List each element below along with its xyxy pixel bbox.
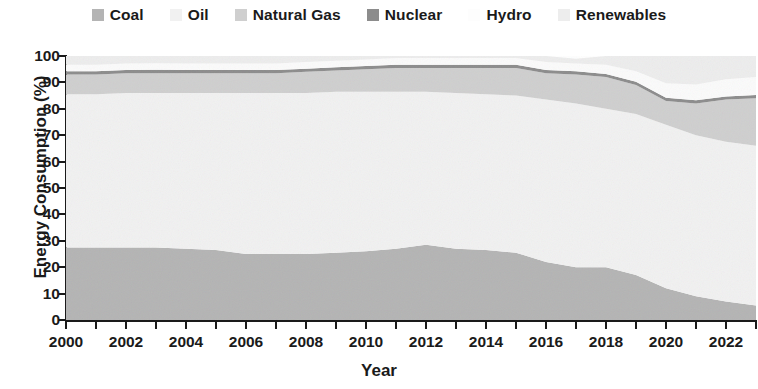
y-tick-label: 60 — [18, 154, 60, 170]
y-tick-label: 30 — [18, 233, 60, 249]
legend-item-label: Hydro — [486, 6, 531, 24]
x-tick-label: 2022 — [709, 333, 743, 351]
legend-item-nuclear[interactable]: Nuclear — [367, 6, 443, 24]
x-tick-mark — [665, 322, 667, 329]
y-tick-label: 0 — [18, 312, 60, 328]
x-tick-mark — [65, 322, 67, 329]
x-tick-mark — [545, 322, 547, 329]
legend-item-renewables[interactable]: Renewables — [558, 6, 667, 24]
legend-item-oil[interactable]: Oil — [170, 6, 209, 24]
y-tick-label: 70 — [18, 127, 60, 143]
y-tick-label: 20 — [18, 259, 60, 275]
x-tick-label: 2008 — [289, 333, 323, 351]
x-tick-label: 2012 — [409, 333, 443, 351]
legend-item-coal[interactable]: Coal — [92, 6, 144, 24]
legend-item-natural-gas[interactable]: Natural Gas — [235, 6, 341, 24]
x-tick-mark — [185, 322, 187, 329]
x-tick-mark — [215, 322, 217, 329]
x-tick-mark — [635, 322, 637, 329]
x-tick-mark — [575, 322, 577, 329]
legend-swatch-icon — [235, 9, 247, 21]
legend-item-label: Renewables — [576, 6, 667, 24]
x-tick-mark — [485, 322, 487, 329]
x-tick-label: 2002 — [109, 333, 143, 351]
legend-swatch-icon — [367, 9, 379, 21]
legend-item-hydro[interactable]: Hydro — [468, 6, 531, 24]
x-tick-mark — [275, 322, 277, 329]
x-tick-label: 2010 — [349, 333, 383, 351]
x-tick-label: 2020 — [649, 333, 683, 351]
x-tick-mark — [425, 322, 427, 329]
legend-swatch-icon — [468, 9, 480, 21]
y-tick-label: 90 — [18, 74, 60, 90]
legend-swatch-icon — [170, 9, 182, 21]
x-tick-mark — [755, 322, 757, 329]
x-axis-line — [65, 320, 757, 322]
x-tick-mark — [95, 322, 97, 329]
x-tick-mark — [125, 322, 127, 329]
x-tick-mark — [155, 322, 157, 329]
x-tick-label: 2006 — [229, 333, 263, 351]
x-axis-title: Year — [0, 361, 758, 381]
legend-item-label: Coal — [110, 6, 144, 24]
x-tick-mark — [365, 322, 367, 329]
y-axis-ticks: 0102030405060708090100 — [18, 0, 60, 389]
y-tick-label: 10 — [18, 286, 60, 302]
legend-item-label: Nuclear — [385, 6, 443, 24]
x-tick-mark — [695, 322, 697, 329]
legend-swatch-icon — [558, 9, 570, 21]
x-tick-label: 2000 — [49, 333, 83, 351]
stacked-area-chart: CoalOilNatural GasNuclearHydroRenewables… — [0, 0, 758, 389]
x-tick-label: 2004 — [169, 333, 203, 351]
x-tick-mark — [605, 322, 607, 329]
x-tick-mark — [515, 322, 517, 329]
x-tick-mark — [305, 322, 307, 329]
plot-texture-overlay — [66, 56, 756, 320]
chart-legend: CoalOilNatural GasNuclearHydroRenewables — [0, 2, 758, 28]
y-tick-label: 40 — [18, 206, 60, 222]
y-tick-label: 80 — [18, 101, 60, 117]
legend-swatch-icon — [92, 9, 104, 21]
x-tick-label: 2016 — [529, 333, 563, 351]
legend-item-label: Natural Gas — [253, 6, 341, 24]
legend-item-label: Oil — [188, 6, 209, 24]
x-tick-mark — [245, 322, 247, 329]
x-tick-mark — [455, 322, 457, 329]
y-tick-label: 50 — [18, 180, 60, 196]
x-tick-mark — [335, 322, 337, 329]
x-tick-label: 2014 — [469, 333, 503, 351]
x-tick-label: 2018 — [589, 333, 623, 351]
stacked-area-svg — [66, 56, 756, 320]
plot-area — [66, 56, 756, 320]
x-tick-mark — [395, 322, 397, 329]
x-tick-mark — [725, 322, 727, 329]
y-tick-label: 100 — [18, 48, 60, 64]
